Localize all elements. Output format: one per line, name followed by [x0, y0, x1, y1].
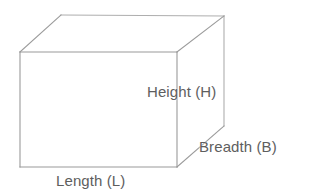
- length-dimension-label: Length (L): [56, 173, 125, 189]
- height-dimension-label: Height (H): [147, 84, 216, 100]
- breadth-dimension-label: Breadth (B): [199, 139, 277, 155]
- cuboid-front-face: [20, 52, 177, 167]
- cuboid-diagram-canvas: Height (H) Breadth (B) Length (L): [0, 0, 311, 196]
